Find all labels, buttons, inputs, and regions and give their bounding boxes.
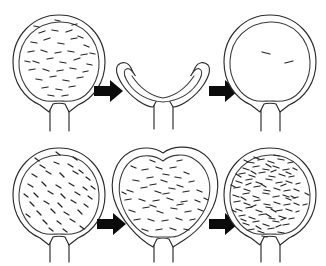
- bladder-sequence-diagram: [0, 0, 326, 266]
- figure-container: [0, 0, 326, 266]
- bladder-inner-wall-row1-panel3: [230, 22, 310, 101]
